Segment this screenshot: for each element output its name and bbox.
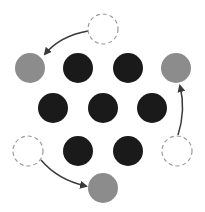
empty-positions-group bbox=[13, 14, 192, 166]
empty-position-right-bottom bbox=[162, 136, 192, 166]
empty-position-left-bottom bbox=[13, 136, 43, 166]
moved-peg-right-top bbox=[161, 53, 191, 83]
filled-peg-r1c3 bbox=[113, 53, 143, 83]
filled-peg-r2c2 bbox=[88, 93, 118, 123]
empty-position-top bbox=[88, 14, 118, 44]
move-arrow-right-bottom-to-right-top bbox=[178, 86, 183, 135]
filled-peg-r2c3 bbox=[137, 93, 167, 123]
moved-peg-bottom bbox=[88, 173, 118, 203]
move-arrow-top-to-left-top bbox=[45, 31, 88, 54]
filled-peg-r2c1 bbox=[38, 93, 68, 123]
diagram-canvas bbox=[0, 0, 205, 212]
filled-peg-r3c2 bbox=[63, 136, 93, 166]
moved-pegs-group bbox=[15, 53, 191, 203]
moved-peg-left-top bbox=[15, 53, 45, 83]
peg-diagram bbox=[0, 0, 205, 212]
filled-peg-r1c2 bbox=[63, 53, 93, 83]
filled-peg-r3c3 bbox=[113, 136, 143, 166]
filled-pegs-group bbox=[38, 53, 167, 166]
